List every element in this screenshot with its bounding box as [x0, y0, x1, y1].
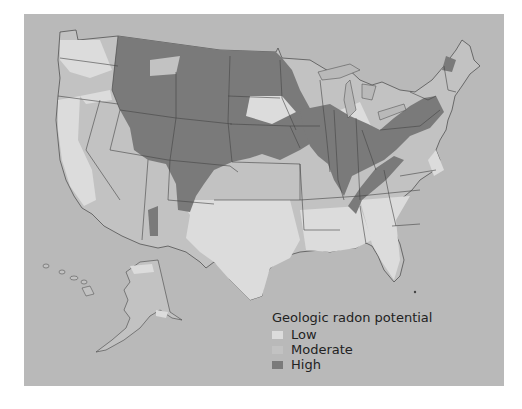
- legend-title: Geologic radon potential: [272, 310, 432, 325]
- legend-item-moderate: Moderate: [272, 342, 432, 357]
- legend-item-high: High: [272, 357, 432, 372]
- legend-label-high: High: [291, 357, 321, 372]
- radon-map: [0, 0, 522, 409]
- legend-label-moderate: Moderate: [291, 342, 353, 357]
- hawaii: [43, 264, 94, 296]
- swatch-high: [272, 361, 283, 369]
- legend: Geologic radon potential Low Moderate Hi…: [272, 310, 432, 372]
- legend-label-low: Low: [291, 327, 317, 342]
- alaska: [96, 260, 182, 352]
- swatch-low: [272, 331, 283, 339]
- swatch-moderate: [272, 346, 283, 354]
- legend-item-low: Low: [272, 327, 432, 342]
